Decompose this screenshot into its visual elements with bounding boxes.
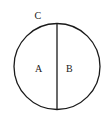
label-region-a: A xyxy=(35,63,43,74)
diagram-canvas: C A B xyxy=(0,0,108,120)
label-point-c: C xyxy=(35,10,42,21)
circle-diagram: C A B xyxy=(0,0,108,120)
label-region-b: B xyxy=(66,63,73,74)
